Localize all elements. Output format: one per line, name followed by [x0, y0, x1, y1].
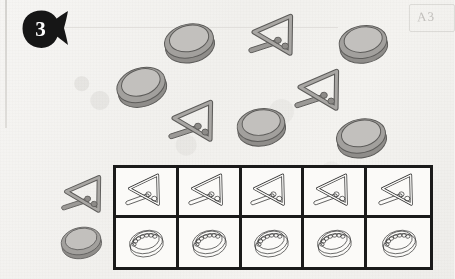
triangle-key-icon: [60, 170, 110, 220]
grid-cell-tambourine[interactable]: [116, 218, 179, 268]
answer-grid: [113, 165, 433, 270]
grid-cell-tambourine[interactable]: [242, 218, 305, 268]
triangle-icon: [164, 91, 226, 153]
triangle-outline-icon: [311, 168, 358, 215]
grid-cell-triangle[interactable]: [367, 168, 430, 218]
tambourine-outline-icon: [373, 218, 424, 268]
grid-cell-tambourine[interactable]: [367, 218, 430, 268]
question-number: 3: [27, 16, 54, 43]
tambourine-outline-icon: [246, 218, 297, 268]
tambourine-outline-icon: [309, 218, 360, 268]
grid-cell-triangle[interactable]: [304, 168, 367, 218]
tambourine-icon: [227, 91, 296, 160]
tambourine-outline-icon: [183, 218, 234, 268]
grid-cell-triangle[interactable]: [179, 168, 242, 218]
grid-cell-triangle[interactable]: [116, 168, 179, 218]
grid-cell-triangle[interactable]: [242, 168, 305, 218]
triangle-outline-icon: [375, 168, 422, 215]
triangle-outline-icon: [248, 168, 295, 215]
margin-rule: [5, 0, 7, 128]
tambourine-key-icon: [56, 216, 106, 266]
question-number-badge: 3: [18, 8, 70, 52]
corner-stamp-text: A3: [416, 8, 435, 25]
corner-stamp-box: A3: [409, 4, 455, 32]
grid-cell-tambourine[interactable]: [179, 218, 242, 268]
triangle-icon: [244, 5, 306, 67]
tambourine-outline-icon: [120, 218, 171, 268]
triangle-icon: [290, 60, 352, 122]
grid-cell-tambourine[interactable]: [304, 218, 367, 268]
triangle-outline-icon: [122, 168, 169, 215]
triangle-outline-icon: [185, 168, 232, 215]
